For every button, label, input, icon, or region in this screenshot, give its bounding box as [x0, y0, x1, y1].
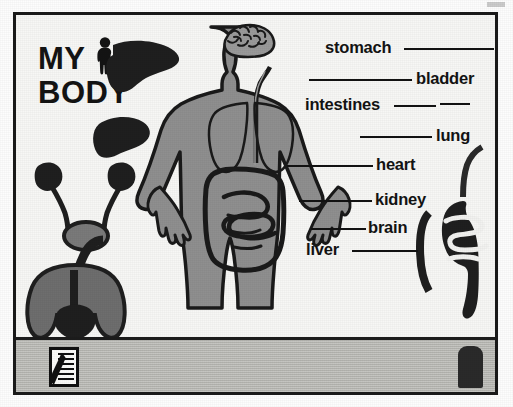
leader-line-intestines-segment: [440, 103, 470, 105]
application-window: MY BODY: [13, 12, 498, 395]
stomach-intestines-silhouette: [416, 143, 495, 337]
label-brain[interactable]: brain: [368, 219, 407, 236]
kidneys-bladder-silhouette: [35, 163, 136, 250]
brain-drawing: [225, 25, 274, 57]
label-heart[interactable]: heart: [376, 156, 415, 173]
leader-line-bladder: [309, 79, 412, 81]
label-kidney[interactable]: kidney: [375, 191, 426, 208]
leader-line-intestines: [394, 105, 436, 107]
scanned-page: MY BODY: [0, 0, 513, 407]
label-intestines[interactable]: intestines: [305, 96, 380, 113]
bottom-toolbar: [16, 337, 495, 392]
label-liver[interactable]: liver: [306, 241, 339, 258]
toolbar-texture: [16, 340, 495, 392]
stamp-tool-button[interactable]: [458, 346, 483, 388]
leader-line-lung: [360, 136, 432, 138]
lungs-heart-silhouette: [27, 240, 124, 337]
leader-line-liver: [352, 250, 418, 252]
leader-line-kidney: [299, 200, 372, 202]
leader-line-brain: [311, 228, 366, 230]
human-body-figure: [124, 19, 374, 337]
drawing-canvas[interactable]: MY BODY: [16, 15, 495, 337]
label-lung[interactable]: lung: [436, 127, 470, 144]
label-stomach[interactable]: stomach: [325, 39, 391, 56]
scan-corner-artifact: [487, 2, 505, 7]
notes-tool-button[interactable]: [49, 347, 79, 387]
label-bladder[interactable]: bladder: [416, 70, 474, 87]
leader-line-stomach: [404, 48, 494, 50]
leader-line-heart: [287, 165, 373, 167]
